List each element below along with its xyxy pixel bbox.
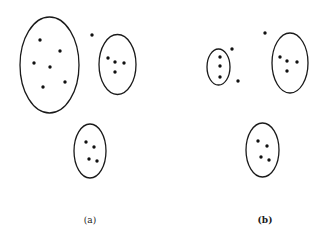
data-point [285, 69, 288, 72]
data-point [218, 55, 221, 58]
cluster-right-cluster [272, 33, 308, 93]
data-point [256, 139, 259, 142]
data-point [218, 75, 221, 78]
data-point [295, 60, 298, 63]
cluster-large-cluster [20, 17, 79, 113]
cluster-small-left-cluster [207, 49, 230, 85]
data-point [84, 140, 87, 143]
cluster-ellipse [272, 33, 308, 93]
panel-label-a: (a) [84, 215, 96, 225]
data-point [63, 80, 66, 83]
data-point [122, 61, 125, 64]
cluster-ellipse [20, 17, 79, 113]
data-point [95, 159, 98, 162]
panel-a: (a) [20, 17, 136, 225]
data-point [278, 55, 281, 58]
data-point [92, 145, 95, 148]
diagram-svg: (a) (b) [0, 0, 326, 243]
data-point [41, 85, 44, 88]
cluster-ellipse [74, 124, 106, 178]
data-point [113, 60, 116, 63]
data-point [58, 49, 61, 52]
outlier-point [236, 79, 239, 82]
cluster-ellipse [246, 123, 279, 177]
outlier-point [263, 31, 266, 34]
data-point [32, 61, 35, 64]
data-point [113, 70, 116, 73]
cluster-bottom-cluster [74, 124, 106, 178]
data-point [259, 155, 262, 158]
data-point [218, 64, 221, 67]
data-point [265, 144, 268, 147]
data-point [48, 65, 51, 68]
clustering-diagram: (a) (b) [0, 0, 326, 243]
cluster-bottom-cluster [246, 123, 279, 177]
outlier-point [90, 33, 93, 36]
data-point [267, 158, 270, 161]
panel-label-b: (b) [258, 215, 273, 225]
data-point [38, 38, 41, 41]
data-point [106, 56, 109, 59]
panel-b: (b) [207, 31, 308, 225]
cluster-ellipse [99, 35, 136, 95]
cluster-right-cluster [99, 35, 136, 95]
outlier-point [230, 47, 233, 50]
data-point [285, 59, 288, 62]
data-point [87, 157, 90, 160]
cluster-ellipse [207, 49, 230, 85]
